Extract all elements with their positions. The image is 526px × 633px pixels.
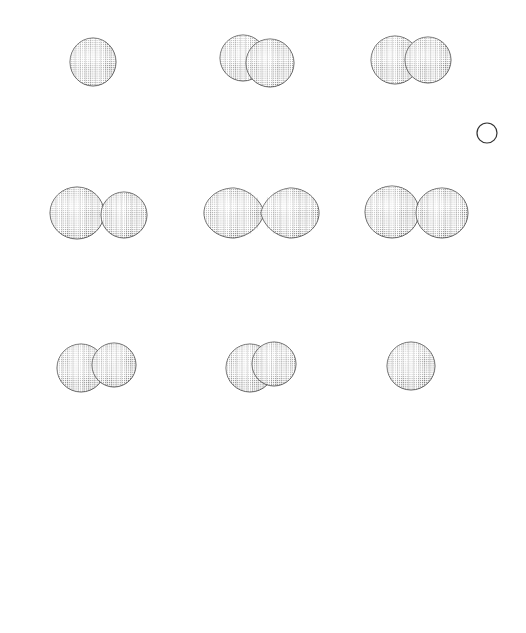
lobe-shading [387, 342, 435, 390]
lobe-shading [50, 187, 104, 239]
lobe-shading [70, 38, 116, 86]
lobe-shading [405, 37, 451, 83]
lobe-shading [416, 188, 468, 238]
collision-snapshot [70, 38, 116, 86]
lobe-shading [101, 192, 147, 238]
collision-snapshot [57, 343, 136, 392]
lobe-shading [365, 186, 419, 238]
collision-snapshot [387, 342, 435, 390]
lobe-shading [246, 39, 294, 87]
lobe-shading [252, 342, 296, 386]
lobe-shading [92, 343, 136, 387]
collision-snapshot [371, 36, 451, 84]
figure-background [0, 0, 526, 633]
figure-root: Binary droplet collision sequence with e… [0, 0, 526, 633]
figure-canvas [0, 0, 526, 633]
